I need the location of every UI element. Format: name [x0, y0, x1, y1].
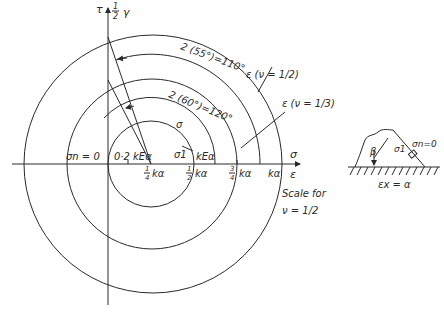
arrow-110	[118, 58, 127, 59]
half-den: 2	[113, 12, 118, 21]
eps-nu-half-label: ε (ν = 1/2)	[246, 69, 299, 80]
strain-label: εx = α	[378, 179, 411, 190]
kEalpha-label: kEα	[196, 151, 215, 162]
sigma-n-zero: σn = 0	[66, 151, 100, 162]
quarter-kalpha: kα	[152, 168, 165, 179]
beta-label: β	[369, 146, 377, 157]
mohr-circle-diagram: τ 1 2 γ σ ε 1 4 kα 1 2 kα 3 4 kα kα σn =…	[0, 0, 444, 315]
arrow-120	[126, 106, 134, 108]
sigma1-label: σ1	[174, 149, 187, 160]
scale-for-label: Scale for	[282, 188, 327, 199]
wedge-inset: β σ1 σn=0 εx = α	[348, 130, 440, 191]
inset-sigma-n: σn=0	[412, 139, 437, 149]
sigma-axis-label: σ	[290, 148, 298, 161]
sigma-circle-label: σ	[176, 119, 183, 130]
svg-text:2: 2	[187, 174, 192, 182]
eps-nu-third-label: ε (ν = 1/3)	[282, 98, 335, 109]
svg-text:1: 1	[187, 165, 191, 173]
ground-hatching	[350, 167, 438, 175]
scale-nu-label: ν = 1/2	[282, 205, 318, 216]
svg-text:1: 1	[145, 165, 149, 173]
full-kalpha: kα	[268, 168, 281, 179]
inset-sigma1: σ1	[394, 144, 405, 154]
svg-text:3: 3	[230, 165, 234, 173]
svg-text:4: 4	[230, 174, 234, 182]
leader-eps-third	[241, 112, 285, 148]
half-num: 1	[113, 2, 118, 11]
gamma-label: γ	[123, 6, 130, 19]
half-kalpha: kα	[195, 168, 208, 179]
threequarter-kalpha: kα	[239, 168, 252, 179]
svg-text:4: 4	[145, 174, 149, 182]
stress-02kEalpha: 0·2 kEα	[114, 151, 152, 162]
tau-label: τ	[96, 3, 103, 16]
epsilon-axis-label: ε	[290, 168, 296, 181]
angle-110-label: 2 (55°)=110°	[179, 41, 246, 74]
